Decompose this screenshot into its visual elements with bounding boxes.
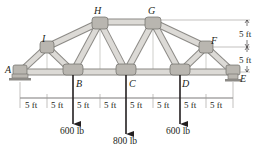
label-C: C <box>129 78 136 89</box>
hdim-2: 5 ft <box>51 100 64 110</box>
hdim-5: 5 ft <box>130 100 143 110</box>
pin-support-A <box>9 74 31 81</box>
load-label-B: 600 lb <box>60 126 84 136</box>
joint-E-plate <box>226 65 240 75</box>
label-A: A <box>4 64 12 75</box>
hdim-3: 5 ft <box>77 100 90 110</box>
label-E: E <box>239 73 246 84</box>
joint-A-plate <box>13 65 27 75</box>
hdim-1: 5 ft <box>25 100 38 110</box>
load-label-C: 800 lb <box>113 136 137 146</box>
joint-H-plate <box>92 17 108 29</box>
label-I: I <box>41 33 46 44</box>
label-D: D <box>181 78 190 89</box>
hdim-6: 5 ft <box>157 100 170 110</box>
joint-D-plate <box>170 64 190 75</box>
load-label-D: 600 lb <box>166 126 190 136</box>
hdim-8: 5 ft <box>210 100 223 110</box>
label-F: F <box>210 35 218 46</box>
hdim-7: 5 ft <box>184 100 197 110</box>
joint-C-plate <box>116 64 136 75</box>
hdim-4: 5 ft <box>104 100 117 110</box>
truss-diagram: A B C D E F G H I 5 ft 5 ft 5 ft 5 ft 5 … <box>0 0 262 160</box>
vdim-upper: 5 ft <box>239 29 252 39</box>
hdim-labels: 5 ft 5 ft 5 ft 5 ft 5 ft 5 ft 5 ft 5 ft <box>25 100 223 110</box>
joint-G-plate <box>145 17 161 29</box>
vdim-lower: 5 ft <box>239 55 252 65</box>
joint-B-plate <box>63 64 83 75</box>
label-G: G <box>148 5 155 16</box>
label-B: B <box>76 78 82 89</box>
label-H: H <box>93 5 102 16</box>
